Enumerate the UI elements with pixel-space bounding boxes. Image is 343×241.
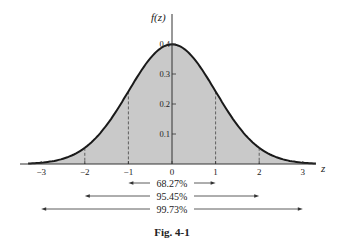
y-tick-label: 0.4 — [159, 39, 170, 49]
figure-caption: Fig. 4-1 — [154, 226, 189, 238]
x-tick-label: 1 — [213, 167, 218, 177]
normal-distribution-figure: −3−2−10123 0.10.20.30.4 z f(z) 68.27%95.… — [0, 0, 343, 241]
arrow-right-icon — [254, 194, 259, 198]
arrow-right-icon — [211, 181, 216, 185]
y-axis-label: f(z) — [151, 11, 166, 24]
annotation-label: 99.73% — [157, 204, 188, 215]
annotation-range: 99.73% — [41, 204, 303, 215]
x-tick-label: −1 — [124, 167, 134, 177]
y-tick-label: 0.2 — [159, 99, 170, 109]
annotation-range: 68.27% — [128, 178, 215, 189]
x-tick-label: 2 — [257, 167, 262, 177]
x-tick-label: 0 — [170, 167, 175, 177]
x-axis-label: z — [320, 162, 326, 174]
y-tick-label: 0.3 — [159, 69, 170, 79]
arrow-left-icon — [85, 194, 90, 198]
arrow-left-icon — [41, 207, 46, 211]
arrow-right-icon — [298, 207, 303, 211]
annotation-range: 95.45% — [85, 191, 259, 202]
chart-canvas: −3−2−10123 0.10.20.30.4 z f(z) 68.27%95.… — [0, 0, 343, 241]
x-tick-label: −3 — [36, 167, 46, 177]
annotation-label: 95.45% — [157, 191, 188, 202]
x-tick-label: −2 — [80, 167, 90, 177]
y-tick-label: 0.1 — [159, 129, 170, 139]
percentage-annotations: 68.27%95.45%99.73% — [41, 178, 303, 215]
x-tick-label: 3 — [301, 167, 306, 177]
arrow-left-icon — [128, 181, 133, 185]
annotation-label: 68.27% — [157, 178, 188, 189]
